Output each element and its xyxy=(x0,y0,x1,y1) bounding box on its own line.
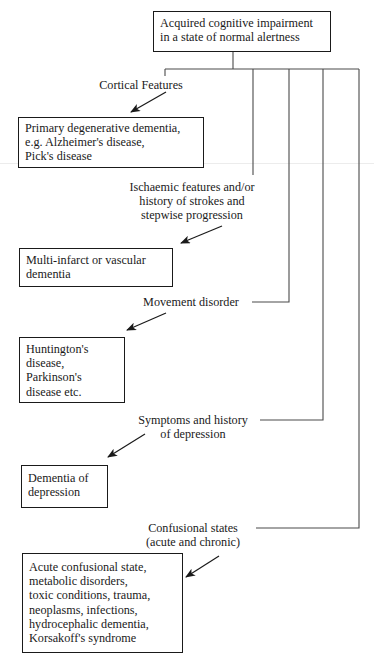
root-text-line-2: in a state of normal alertness xyxy=(160,30,324,44)
condition-movement-disorder: Movement disorder xyxy=(138,295,244,309)
outcome-huntingtons-parkinsons: Huntington's disease, Parkinson's diseas… xyxy=(19,337,125,403)
outcome-multi-infarct-dementia: Multi-infarct or vascular dementia xyxy=(19,248,173,287)
condition-confusional-states: Confusional states (acute and chronic) xyxy=(140,521,246,549)
root-node: Acquired cognitive impairment in a state… xyxy=(153,11,331,52)
outcome-dementia-of-depression: Dementia of depression xyxy=(21,465,108,508)
condition-cortical-features: Cortical Features xyxy=(88,78,194,92)
root-text-line-1: Acquired cognitive impairment xyxy=(160,16,324,30)
condition-ischaemic-features: Ischaemic features and/or history of str… xyxy=(121,180,263,222)
condition-depression-symptoms: Symptoms and history of depression xyxy=(133,413,253,441)
outcome-primary-degenerative-dementia: Primary degenerative dementia, e.g. Alzh… xyxy=(18,117,204,168)
outcome-acute-confusional-state: Acute confusional state, metabolic disor… xyxy=(22,553,183,653)
